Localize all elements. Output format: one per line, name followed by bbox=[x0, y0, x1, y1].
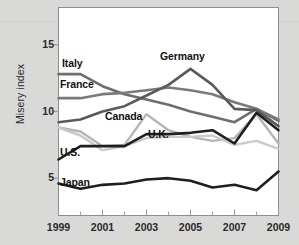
series-label-france: France bbox=[60, 78, 94, 90]
y-axis-label: Misery index bbox=[14, 44, 26, 144]
series-label-italy: Italy bbox=[62, 57, 83, 69]
x-tick-label: 2001 bbox=[83, 221, 123, 233]
y-tick-label: 5 bbox=[34, 171, 54, 183]
y-tick-label: 10 bbox=[34, 105, 54, 117]
series-label-uk: U.K. bbox=[148, 128, 169, 140]
x-tick-label: 1999 bbox=[39, 221, 79, 233]
x-tick-label: 2007 bbox=[215, 221, 255, 233]
x-tick-label: 2009 bbox=[259, 221, 299, 233]
series-line-japan bbox=[59, 172, 279, 191]
chart-figure: Misery index 51015 199920012003200520072… bbox=[0, 0, 299, 245]
y-tick-label: 15 bbox=[34, 38, 54, 50]
series-label-japan: Japan bbox=[60, 176, 90, 188]
series-label-germany: Germany bbox=[160, 50, 205, 62]
chart-lines bbox=[0, 0, 299, 245]
series-label-us: U.S. bbox=[60, 146, 80, 158]
series-label-canada: Canada bbox=[105, 110, 142, 122]
x-tick-label: 2005 bbox=[171, 221, 211, 233]
x-tick-label: 2003 bbox=[127, 221, 167, 233]
